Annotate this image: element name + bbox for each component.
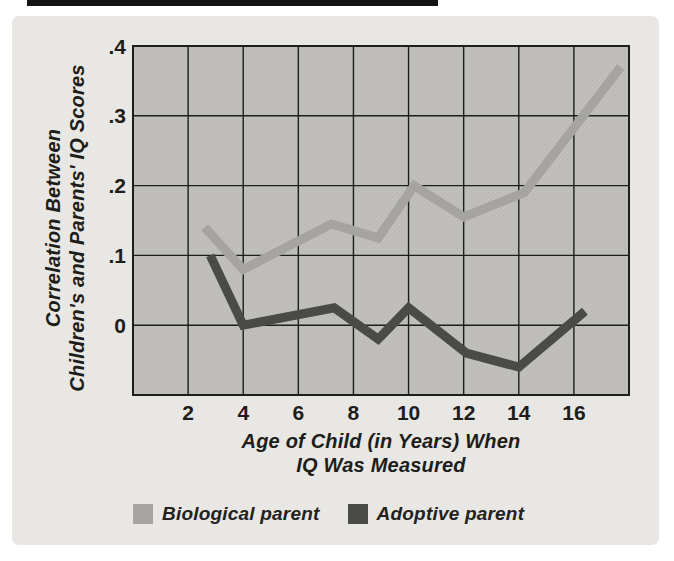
- x-axis-title: Age of Child (in Years) When IQ Was Meas…: [133, 429, 629, 477]
- x-tick-label-12: 12: [452, 401, 475, 424]
- x-tick-label-16: 16: [562, 401, 585, 424]
- legend-swatch-biological: [133, 504, 153, 524]
- x-axis-title-line2: IQ Was Measured: [133, 453, 629, 477]
- x-tick-label-4: 4: [237, 401, 249, 424]
- x-tick-label-8: 8: [348, 401, 360, 424]
- legend-label-biological: Biological parent: [162, 503, 320, 525]
- y-tick-label-.1: .1: [108, 244, 126, 267]
- chart-legend: Biological parent Adoptive parent: [133, 503, 524, 525]
- x-tick-label-2: 2: [182, 401, 194, 424]
- y-tick-label-.4: .4: [108, 35, 126, 58]
- x-tick-label-6: 6: [292, 401, 304, 424]
- x-tick-label-10: 10: [397, 401, 420, 424]
- x-tick-label-14: 14: [507, 401, 531, 424]
- legend-item-biological: Biological parent: [133, 503, 320, 525]
- y-tick-label-0: 0: [114, 314, 126, 337]
- legend-swatch-adoptive: [348, 504, 368, 524]
- y-axis-title-line2: Children's and Parents' IQ Scores: [65, 63, 89, 393]
- y-axis-title-line1: Correlation Between: [41, 63, 65, 393]
- legend-label-adoptive: Adoptive parent: [377, 503, 525, 525]
- x-axis-title-line1: Age of Child (in Years) When: [133, 429, 629, 453]
- scanned-figure-page: 246810121416.4.3.2.10 Correlation Betwee…: [0, 0, 674, 561]
- y-axis-title: Correlation Between Children's and Paren…: [41, 63, 89, 393]
- y-tick-label-.3: .3: [108, 104, 126, 127]
- legend-item-adoptive: Adoptive parent: [348, 503, 525, 525]
- y-tick-label-.2: .2: [108, 174, 126, 197]
